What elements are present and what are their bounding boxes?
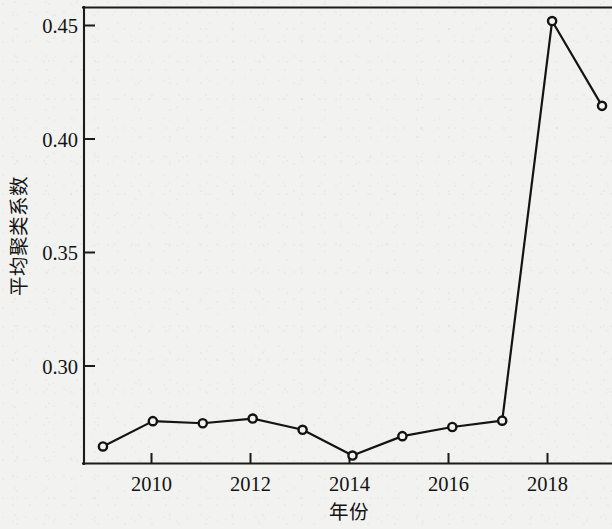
data-point — [149, 417, 157, 425]
data-point — [448, 423, 456, 431]
data-point — [348, 451, 356, 459]
figure-canvas: 0.45 0.40 0.35 0.30 2010 2012 2014 2016 … — [0, 0, 612, 529]
data-point — [249, 414, 257, 422]
x-tick-label: 2010 — [131, 473, 172, 495]
series-markers — [99, 17, 606, 460]
series-line-avg-clustering-coefficient — [103, 21, 602, 456]
x-tick-label: 2016 — [428, 473, 469, 495]
data-point — [199, 419, 207, 427]
y-tick-label: 0.40 — [42, 129, 78, 151]
x-axis-tick-labels: 2010 2012 2014 2016 2018 — [131, 473, 568, 495]
line-chart: 0.45 0.40 0.35 0.30 2010 2012 2014 2016 … — [0, 0, 612, 529]
y-tick-label: 0.45 — [42, 15, 78, 37]
data-point — [498, 417, 506, 425]
data-point — [99, 442, 107, 450]
y-axis-ticks — [84, 26, 95, 367]
y-axis-title: 平均聚类系数 — [8, 176, 31, 296]
x-tick-label: 2014 — [329, 473, 370, 495]
y-tick-label: 0.30 — [42, 356, 78, 378]
data-point — [598, 102, 606, 110]
data-point — [398, 432, 406, 440]
y-axis-tick-labels: 0.45 0.40 0.35 0.30 — [42, 15, 78, 378]
data-point — [298, 426, 306, 434]
x-axis-title: 年份 — [329, 501, 369, 524]
x-tick-label: 2012 — [230, 473, 271, 495]
y-tick-label: 0.35 — [42, 242, 78, 264]
x-tick-label: 2018 — [527, 473, 568, 495]
data-point — [548, 17, 556, 25]
